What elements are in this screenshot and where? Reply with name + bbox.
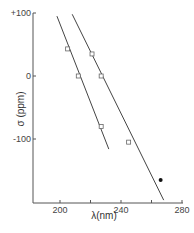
x-tick-label: 200 [52, 205, 67, 215]
open-square-marker [127, 140, 131, 144]
filled-point-marker [159, 178, 163, 182]
y-axis-label: σ (ppm) [15, 91, 26, 126]
open-square-marker [76, 74, 80, 78]
tick-labels: +1000-100200240280 [11, 8, 190, 215]
open-square-marker [99, 124, 103, 128]
y-tick-label: 0 [26, 71, 31, 81]
y-tick-label: -100 [13, 134, 31, 144]
x-axis-label: λ(nm) [91, 210, 117, 221]
x-tick-label: 280 [174, 205, 189, 215]
y-tick-label: +100 [11, 8, 31, 18]
open-square-marker [99, 74, 103, 78]
data-points [66, 47, 163, 182]
open-square-marker [90, 52, 94, 56]
open-square-marker [66, 47, 70, 51]
axes [33, 13, 183, 203]
fit-lines [57, 14, 164, 200]
fit-line [72, 14, 164, 200]
chart: +1000-100200240280 λ(nm) σ (ppm) [0, 0, 194, 233]
